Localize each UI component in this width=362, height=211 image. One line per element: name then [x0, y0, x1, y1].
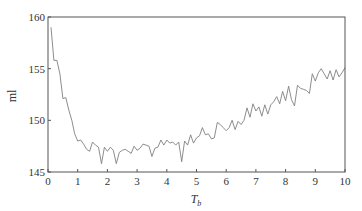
x-tick-label: 4: [164, 175, 170, 187]
x-tick-label: 8: [283, 175, 289, 187]
x-axis-label: Tb: [191, 192, 202, 208]
x-tick-label: 10: [340, 175, 352, 187]
x-axis-label-subscript: b: [197, 199, 201, 208]
x-tick-label: 2: [105, 175, 111, 187]
plot-area: [51, 27, 345, 163]
x-tick-label: 0: [45, 175, 51, 187]
x-tick-label: 6: [223, 175, 229, 187]
y-tick-label: 145: [29, 166, 46, 178]
line-chart: 012345678910145150155160 ml Tb: [0, 0, 362, 211]
x-tick-label: 5: [194, 175, 200, 187]
ticks: 012345678910145150155160: [29, 11, 352, 187]
y-tick-label: 155: [29, 63, 46, 75]
x-tick-label: 1: [75, 175, 81, 187]
axes: [48, 17, 345, 172]
axes-frame: [48, 17, 345, 172]
series-line: [51, 27, 345, 163]
y-tick-label: 150: [29, 114, 46, 126]
x-tick-label: 7: [253, 175, 259, 187]
y-axis-label: ml: [5, 89, 19, 102]
x-tick-label: 9: [313, 175, 319, 187]
y-tick-label: 160: [29, 11, 46, 23]
x-tick-label: 3: [134, 175, 140, 187]
